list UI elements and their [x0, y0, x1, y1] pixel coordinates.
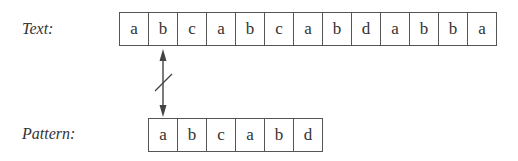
text-cell: d	[352, 13, 381, 45]
text-cell: b	[236, 13, 265, 45]
pattern-cell: b	[178, 119, 207, 151]
text-cell: b	[323, 13, 352, 45]
text-cell: a	[294, 13, 323, 45]
text-cell: a	[207, 13, 236, 45]
text-cell: c	[265, 13, 294, 45]
pattern-label: Pattern:	[22, 125, 75, 143]
text-cell: a	[120, 13, 149, 45]
text-cell: c	[178, 13, 207, 45]
pattern-cell: c	[207, 119, 236, 151]
text-cell: b	[149, 13, 178, 45]
text-label: Text:	[22, 20, 53, 38]
pattern-cell: a	[149, 119, 178, 151]
text-cell: a	[468, 13, 496, 45]
pattern-cell: d	[294, 119, 322, 151]
text-array: a b c a b c a b d a b b a	[119, 12, 497, 46]
text-cell: a	[381, 13, 410, 45]
text-cell: b	[410, 13, 439, 45]
mismatch-arrow-icon	[150, 46, 180, 120]
text-cell: b	[439, 13, 468, 45]
pattern-cell: a	[236, 119, 265, 151]
pattern-cell: b	[265, 119, 294, 151]
pattern-array: a b c a b d	[148, 118, 323, 152]
